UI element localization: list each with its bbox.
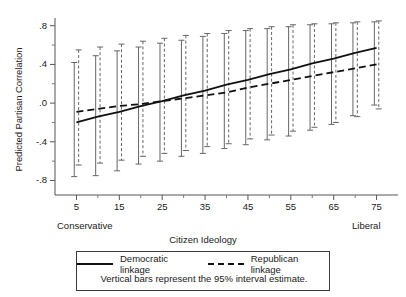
error-bar: [114, 51, 120, 171]
error-bar: [161, 38, 167, 153]
error-bar: [376, 21, 382, 109]
error-bar: [354, 22, 360, 117]
error-bar: [140, 41, 146, 156]
error-bar: [328, 24, 334, 125]
error-bar: [247, 29, 253, 139]
legend-label-democratic-linkage: Democratic linkage: [120, 253, 201, 275]
x-axis-tick-label: 55: [279, 201, 303, 212]
error-bar: [183, 35, 189, 150]
error-bar: [97, 47, 103, 163]
y-axis-tick-label: .8: [25, 21, 47, 30]
error-bar: [93, 56, 99, 176]
legend-swatch-democratic-linkage: [77, 263, 113, 265]
error-bar: [71, 62, 77, 176]
x-axis-tick-label: 45: [236, 201, 260, 212]
x-axis-tick-label: 15: [107, 201, 131, 212]
chart-legend: Democratic linkage Republican linkage Ve…: [76, 251, 330, 291]
error-bar: [371, 22, 377, 105]
error-bar: [221, 33, 227, 148]
chart-figure: Predicted Partisan Correlation Citizen I…: [0, 0, 406, 297]
x-axis-title: Citizen Ideology: [0, 234, 406, 245]
y-axis-title: Predicted Partisan Correlation: [13, 30, 24, 190]
y-axis-tick-label: -.8: [25, 175, 47, 184]
x-axis-left-end-label: Conservative: [57, 220, 112, 231]
x-axis-tick-label: 65: [322, 201, 346, 212]
y-axis-tick-label: .0: [25, 98, 47, 107]
error-bar: [226, 31, 232, 144]
y-axis-tick-label: .4: [25, 59, 47, 68]
error-bar: [119, 44, 125, 160]
legend-note: Vertical bars represent the 95% interval…: [77, 273, 331, 284]
y-axis-tick-label: -.4: [25, 137, 47, 146]
error-bar: [290, 25, 296, 131]
x-axis-tick-label: 35: [193, 201, 217, 212]
error-bar: [269, 27, 275, 135]
x-axis-right-end-label: Liberal: [352, 220, 381, 231]
legend-swatch-republican-linkage: [208, 263, 244, 265]
error-bar: [76, 50, 82, 165]
x-axis-tick-label: 5: [64, 201, 88, 212]
x-axis-tick-label: 25: [150, 201, 174, 212]
x-axis-tick-label: 75: [365, 201, 389, 212]
legend-label-republican-linkage: Republican linkage: [251, 253, 331, 275]
error-bar: [333, 23, 339, 123]
